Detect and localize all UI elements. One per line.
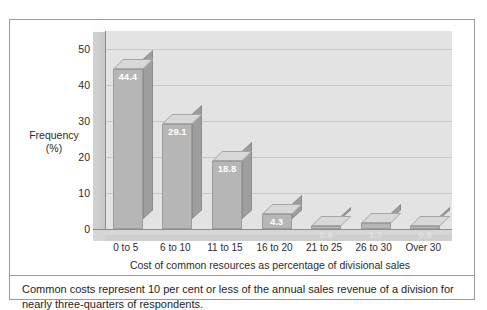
bar-value-label: 44.4 [113,72,143,82]
bar: 18.8 [212,151,242,229]
bar: 4.3 [262,204,292,229]
bar-top-face [361,213,401,223]
bar-value-label: 4.3 [262,217,292,227]
y-axis-title-line1: Frequency [18,129,90,142]
bar-front-face [162,124,192,229]
x-tick-label: 26 to 30 [349,242,399,254]
x-tick-label: 0 to 5 [101,242,151,254]
bar-side-face [192,105,202,219]
y-axis-title: Frequency (%) [18,129,90,155]
y-tick-label: 10 [16,188,90,198]
chart-floor-front [105,235,452,241]
bar-value-label: 29.1 [162,127,192,137]
bar-series: 44.429.118.84.30.91.70.9 [105,31,452,229]
x-tick-label: 16 to 20 [250,242,300,254]
bar: 1.7 [361,213,391,229]
x-axis-title: Cost of common resources as percentage o… [70,259,470,271]
bar: 29.1 [162,114,192,229]
x-tick-label: 6 to 10 [151,242,201,254]
x-tick-label: 21 to 25 [299,242,349,254]
bar-top-face [311,216,351,226]
bar: 0.9 [410,216,440,229]
bar-value-label: 0.9 [311,230,341,240]
bar-chart: 01020304050 Frequency (%) 44.429.118.84.… [10,20,474,260]
y-tick-label: 40 [16,80,90,90]
bar-value-label: 0.9 [410,230,440,240]
bar-front-face [113,69,143,229]
x-tick-label: 11 to 15 [200,242,250,254]
bar: 44.4 [113,59,143,229]
caption-divider [10,275,474,276]
x-axis-line [93,229,452,230]
y-axis-title-line2: (%) [18,142,90,155]
bar-value-label: 18.8 [212,164,242,174]
bar-top-face [410,216,450,226]
x-axis-ticks: 0 to 56 to 1011 to 1516 to 2021 to 2526 … [105,242,452,256]
figure-caption: Common costs represent 10 per cent or le… [22,282,462,310]
bar: 0.9 [311,216,341,229]
bar-value-label: 1.7 [361,230,391,240]
y-tick-label: 0 [16,224,90,234]
figure-screenshot: 01020304050 Frequency (%) 44.429.118.84.… [0,0,487,310]
y-tick-label: 30 [16,116,90,126]
x-tick-label: Over 30 [398,242,448,254]
figure-frame: 01020304050 Frequency (%) 44.429.118.84.… [9,19,475,300]
bar-side-face [143,50,153,219]
y-tick-label: 50 [16,44,90,54]
